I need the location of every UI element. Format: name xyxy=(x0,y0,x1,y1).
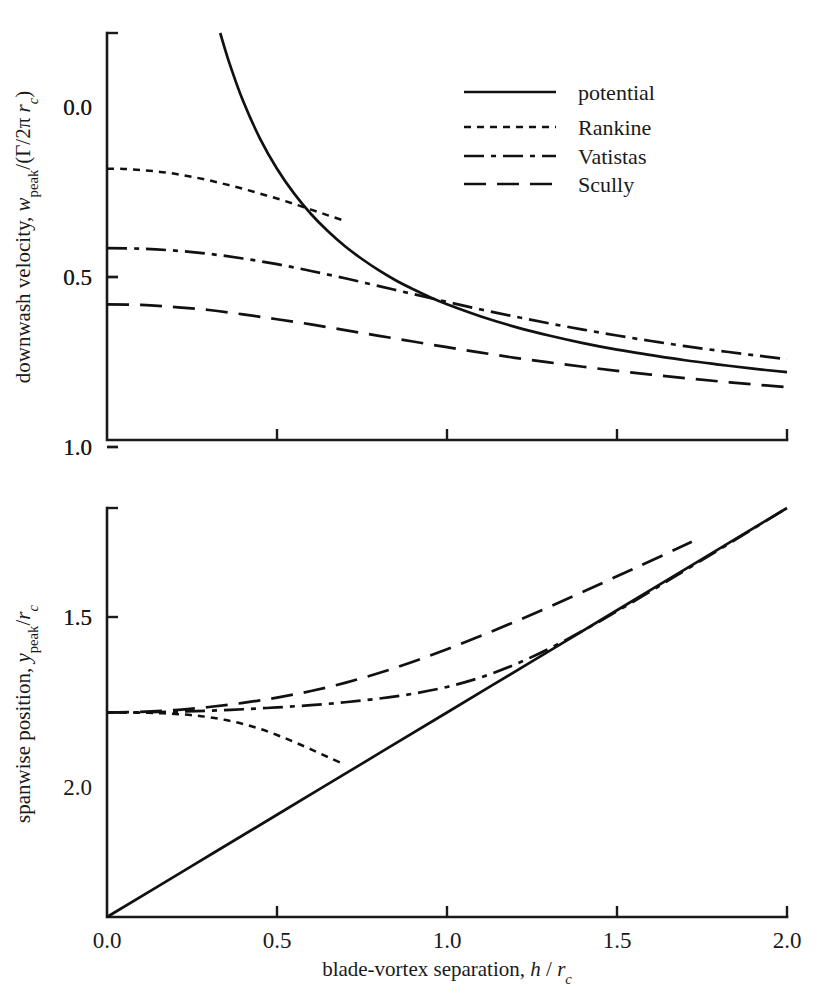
panel-lower-panel: 0.00.51.01.52.00.00.51.01.52.0 xyxy=(63,95,801,953)
bottom-y-axis-title: spanwise position, ypeak/rc xyxy=(11,605,41,824)
panel-upper-panel: 0.00.51.01.5 xyxy=(63,33,787,630)
y-ticklabel-lower-panel-0: 0.0 xyxy=(63,95,92,120)
legend-label-rankine: Rankine xyxy=(578,115,651,140)
series-lower-panel-vatistas xyxy=(107,508,787,713)
x-ticklabel-2: 1.0 xyxy=(433,928,462,953)
series-lower-panel-potential xyxy=(107,508,787,917)
axis-frame-upper-panel xyxy=(107,33,787,440)
legend: potentialRankineVatistasScully xyxy=(464,80,655,197)
series-upper-panel-potential xyxy=(220,33,787,372)
top-y-axis-title: downwash velocity, wpeak/(Γ/2π rc) xyxy=(11,91,41,383)
x-ticklabel-3: 1.5 xyxy=(603,928,632,953)
x-ticklabel-0: 0.0 xyxy=(93,928,122,953)
x-ticklabel-4: 2.0 xyxy=(773,928,802,953)
y-ticklabel-lower-panel-3: 1.5 xyxy=(63,605,92,630)
legend-label-vatistas: Vatistas xyxy=(578,144,646,169)
series-lower-panel-scully xyxy=(107,542,692,713)
legend-label-scully: Scully xyxy=(578,172,634,197)
y-ticklabel-lower-panel-2: 1.0 xyxy=(63,435,92,460)
y-ticklabel-lower-panel-1: 0.5 xyxy=(63,265,92,290)
figure-root: 0.00.51.01.50.00.51.01.52.00.00.51.01.52… xyxy=(0,0,824,1004)
x-axis-title: blade-vortex separation, h / rc xyxy=(322,957,572,987)
legend-label-potential: potential xyxy=(578,80,655,105)
y-ticklabel-lower-panel-4: 2.0 xyxy=(63,775,92,800)
x-ticklabel-1: 0.5 xyxy=(263,928,292,953)
chart-canvas: 0.00.51.01.50.00.51.01.52.00.00.51.01.52… xyxy=(0,0,824,1004)
series-lower-panel-rankine xyxy=(107,712,345,764)
